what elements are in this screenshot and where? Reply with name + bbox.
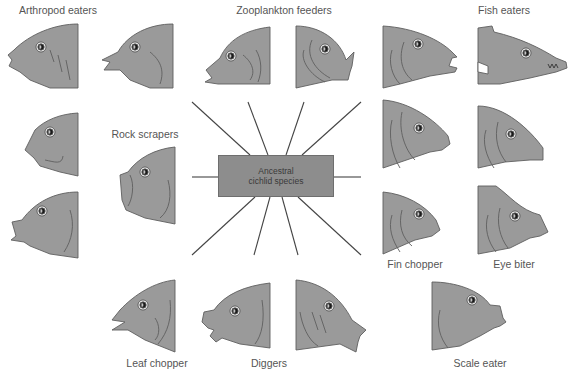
fish-rock-scraper-icon: [120, 147, 175, 224]
fish-digger-1-icon: [202, 283, 270, 348]
fish-arthropod-1-icon: [8, 24, 78, 88]
label-diggers: Diggers: [251, 357, 287, 369]
fish-right-mid-1-icon: [383, 100, 450, 168]
label-arthropod-eaters: Arthropod eaters: [19, 4, 97, 16]
ancestral-species-box: Ancestral cichlid species: [218, 155, 334, 197]
fish-fin-chopper-icon: [383, 192, 440, 254]
label-scale-eater: Scale eater: [453, 357, 506, 369]
fish-right-mid-2-icon: [478, 106, 543, 168]
fish-zooplankton-2-icon: [296, 26, 354, 88]
fish-leaf-chopper-icon: [112, 280, 175, 352]
fish-arthropod-2-icon: [102, 24, 173, 88]
fish-left-mid-icon: [25, 113, 78, 176]
label-fish-eaters: Fish eaters: [478, 4, 530, 16]
fish-scale-eater-icon: [432, 282, 506, 350]
center-label-line1: Ancestral: [258, 166, 293, 176]
fish-left-lower-icon: [11, 192, 78, 258]
fish-digger-2-icon: [296, 280, 366, 352]
label-eye-biter: Eye biter: [493, 258, 534, 270]
label-zooplankton-feeders: Zooplankton feeders: [236, 4, 332, 16]
label-rock-scrapers: Rock scrapers: [111, 128, 178, 140]
fish-zooplankton-1-icon: [205, 27, 270, 84]
label-leaf-chopper: Leaf chopper: [126, 357, 187, 369]
fish-eye-biter-icon: [478, 186, 548, 254]
cichlid-radiation-diagram: Ancestral cichlid species Arthropod eate…: [0, 0, 578, 374]
center-label-line2: cichlid species: [249, 176, 304, 186]
fish-fish-eater-1-icon: [383, 26, 457, 88]
fish-fish-eater-2-icon: [478, 26, 567, 84]
label-fin-chopper: Fin chopper: [387, 258, 442, 270]
